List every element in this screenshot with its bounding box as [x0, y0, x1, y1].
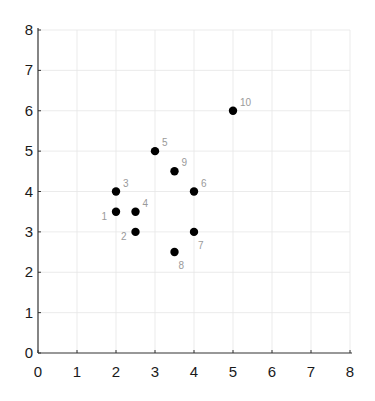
y-tick-label: 7 — [25, 61, 33, 78]
data-point-2 — [131, 228, 139, 236]
data-point-label: 4 — [143, 198, 149, 209]
data-point-6 — [190, 187, 198, 195]
x-tick-label: 1 — [73, 363, 81, 380]
data-point-label: 10 — [240, 97, 252, 108]
data-point-label: 5 — [162, 137, 168, 148]
x-tick-label: 4 — [190, 363, 198, 380]
x-tick-label: 2 — [112, 363, 120, 380]
x-tick-label: 6 — [268, 363, 276, 380]
data-point-5 — [151, 147, 159, 155]
x-tick-label: 0 — [34, 363, 42, 380]
y-tick-label: 2 — [25, 263, 33, 280]
y-tick-label: 5 — [25, 142, 33, 159]
x-axis-ticks: 012345678 — [34, 350, 354, 380]
y-tick-label: 4 — [25, 183, 33, 200]
data-point-label: 9 — [182, 157, 188, 168]
x-tick-label: 8 — [346, 363, 354, 380]
data-point-label: 2 — [121, 231, 127, 242]
scatter-chart: 012345678 012345678 12345678910 — [0, 0, 375, 401]
data-point-label: 1 — [101, 211, 107, 222]
data-point-7 — [190, 228, 198, 236]
data-point-label: 3 — [123, 178, 129, 189]
data-point-8 — [170, 248, 178, 256]
x-tick-label: 7 — [307, 363, 315, 380]
data-point-9 — [170, 167, 178, 175]
data-point-label: 6 — [201, 178, 207, 189]
data-point-3 — [112, 187, 120, 195]
y-tick-label: 8 — [25, 21, 33, 38]
x-tick-label: 3 — [151, 363, 159, 380]
data-point-4 — [131, 207, 139, 215]
y-tick-label: 0 — [25, 344, 33, 361]
y-tick-label: 1 — [25, 304, 33, 321]
data-point-10 — [229, 107, 237, 115]
data-point-1 — [112, 207, 120, 215]
data-points: 12345678910 — [101, 97, 251, 271]
y-tick-label: 3 — [25, 223, 33, 240]
x-tick-label: 5 — [229, 363, 237, 380]
y-tick-label: 6 — [25, 102, 33, 119]
data-point-label: 8 — [179, 260, 185, 271]
data-point-label: 7 — [198, 240, 204, 251]
